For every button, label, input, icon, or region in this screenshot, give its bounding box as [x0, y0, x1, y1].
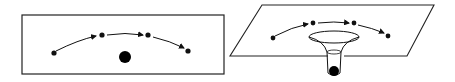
path-arrow-2 — [107, 34, 143, 36]
path-point — [145, 32, 150, 37]
path-point — [386, 34, 391, 39]
path-arrow-3 — [153, 37, 184, 48]
path-arrow-2 — [318, 22, 349, 23]
gravity-diagram — [0, 0, 455, 82]
path-arrow-3 — [358, 25, 384, 33]
path-point — [51, 50, 56, 55]
central-mass — [119, 51, 131, 63]
path-point — [311, 21, 316, 26]
gravity-well — [309, 31, 359, 76]
tilted-plane — [230, 5, 434, 56]
path-point — [185, 48, 190, 53]
path-arrow-1 — [56, 36, 96, 51]
path-point — [99, 32, 104, 37]
flat-plane — [22, 15, 224, 74]
curved-space-panel — [230, 5, 434, 76]
path-point — [352, 21, 357, 26]
path-arrow-1 — [275, 24, 308, 36]
flat-space-panel — [22, 15, 224, 74]
path-point — [271, 36, 276, 41]
central-mass — [329, 66, 339, 76]
